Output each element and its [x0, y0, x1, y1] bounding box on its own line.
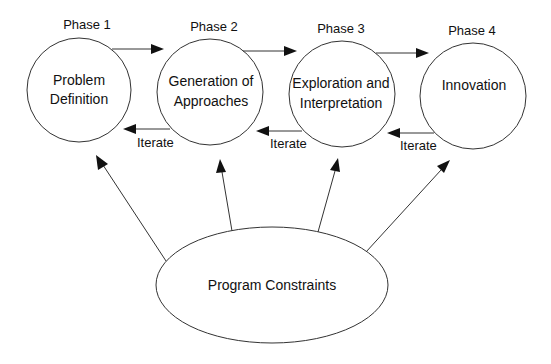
iterate-arrow-2-1 — [123, 124, 170, 134]
iterate-arrow-3-2 — [256, 126, 302, 136]
phase-1-text-line-2: Definition — [50, 91, 108, 107]
iterate-label-2: Iterate — [270, 136, 307, 151]
forward-arrow-1-2 — [112, 44, 164, 54]
phase-1-node — [27, 38, 131, 142]
phase-3-text-line-1: Exploration and — [292, 75, 389, 91]
program-constraints-label: Program Constraints — [208, 277, 336, 293]
iterate-arrow-4-3 — [387, 128, 434, 138]
phase-2-label: Phase 2 — [190, 19, 238, 34]
phase-3-text-line-2: Interpretation — [300, 95, 383, 111]
phase-1-text-line-1: Problem — [53, 72, 105, 88]
phase-2-text-line-2: Approaches — [174, 93, 249, 109]
phase-1-label: Phase 1 — [63, 17, 111, 32]
phase-4-text: Innovation — [442, 77, 507, 93]
forward-arrow-3-4 — [376, 48, 429, 58]
phase-2-node — [157, 39, 263, 145]
iterate-label-3: Iterate — [400, 138, 437, 153]
constraint-arrow-phase-2 — [216, 159, 232, 231]
process-diagram: Phase 1 Phase 2 Phase 3 Phase 4 Problem … — [0, 0, 551, 364]
iterate-label-1: Iterate — [137, 135, 174, 150]
phase-3-node — [289, 41, 395, 147]
phase-4-node — [420, 43, 526, 149]
constraint-arrow-phase-1 — [96, 155, 166, 261]
phase-3-label: Phase 3 — [317, 21, 365, 36]
phase-4-label: Phase 4 — [448, 23, 496, 38]
constraint-arrow-phase-4 — [366, 160, 450, 252]
constraint-arrow-phase-3 — [318, 158, 340, 232]
phase-2-text-line-1: Generation of — [169, 73, 254, 89]
forward-arrow-2-3 — [243, 46, 297, 56]
